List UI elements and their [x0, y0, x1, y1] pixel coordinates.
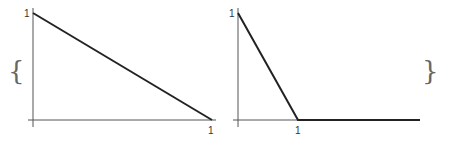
- right-y-tick-label: 1: [229, 8, 235, 19]
- figure: 1 1 { 1 1 }: [0, 0, 449, 141]
- left-brace: {: [8, 56, 25, 86]
- left-x-tick-label: 1: [208, 125, 214, 136]
- right-brace: }: [422, 56, 439, 86]
- right-series-line: [238, 13, 420, 120]
- left-series-line: [33, 13, 212, 120]
- left-y-tick-label: 1: [24, 8, 30, 19]
- right-x-tick-label: 1: [295, 125, 301, 136]
- left-plot: 1 1 {: [8, 8, 216, 136]
- right-plot: 1 1 }: [229, 8, 439, 136]
